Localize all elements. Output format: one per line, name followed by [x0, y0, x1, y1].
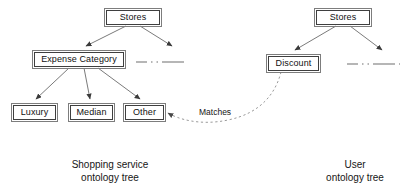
node-left-stores[interactable]: Stores — [106, 10, 160, 25]
edge-left-stores-to-expense-category — [86, 26, 126, 46]
node-other[interactable]: Other — [125, 105, 164, 120]
edge-expense-category-to-median — [84, 68, 90, 99]
node-right-stores[interactable]: Stores — [316, 10, 370, 25]
ontology-matching-diagram: Stores Expense Category Luxury Median Ot… — [0, 0, 419, 192]
node-luxury[interactable]: Luxury — [13, 105, 56, 120]
matches-label: Matches — [199, 108, 231, 117]
node-median[interactable]: Median — [70, 105, 113, 120]
edge-right-stores-to-discount — [295, 26, 336, 50]
edge-left-stores-to-placeholder — [140, 26, 172, 46]
caption-shopping-service-ontology-tree: Shopping service ontology tree — [44, 158, 176, 184]
edge-right-stores-to-placeholder — [350, 26, 382, 50]
node-expense-category[interactable]: Expense Category — [34, 52, 124, 67]
caption-user-ontology-tree: User ontology tree — [300, 158, 410, 184]
edge-expense-category-to-other — [98, 68, 140, 99]
node-discount[interactable]: Discount — [268, 56, 319, 71]
edge-expense-category-to-luxury — [36, 68, 69, 99]
